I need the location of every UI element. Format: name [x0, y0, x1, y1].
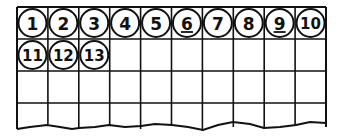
numbered-cell-4: 4 — [111, 9, 139, 37]
numbered-cell-12: 12 — [49, 41, 77, 69]
numbered-cell-11: 11 — [18, 41, 46, 69]
numbered-cell-8: 8 — [235, 9, 263, 37]
cell-number: 3 — [88, 14, 100, 34]
cell-number: 4 — [119, 14, 131, 34]
cell-number: 11 — [22, 47, 43, 65]
cell-number: 10 — [300, 15, 321, 33]
cell-number: 12 — [53, 47, 74, 65]
cell-number: 1 — [27, 14, 39, 34]
numbered-cell-7: 7 — [204, 9, 232, 37]
cell-number: 13 — [84, 47, 105, 65]
numbered-cell-6: 6 — [173, 9, 201, 37]
cell-number: 6 — [181, 14, 193, 34]
numbered-cell-9: 9 — [266, 9, 294, 37]
numbered-cell-3: 3 — [80, 9, 108, 37]
numbered-cell-1: 1 — [18, 9, 46, 37]
numbered-grid: 12345678910111213 — [0, 0, 340, 139]
numbered-cell-2: 2 — [49, 9, 77, 37]
numbered-cell-13: 13 — [80, 41, 108, 69]
cell-number: 5 — [150, 14, 162, 34]
cell-number: 7 — [212, 14, 224, 34]
numbered-cell-10: 10 — [297, 9, 325, 37]
cell-number: 8 — [243, 14, 255, 34]
cell-number: 2 — [57, 14, 69, 34]
numbered-cell-5: 5 — [142, 9, 170, 37]
cell-number: 9 — [274, 14, 286, 34]
